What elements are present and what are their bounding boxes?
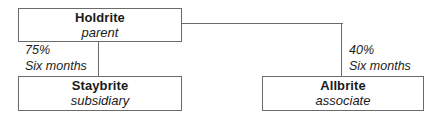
edge-label-associate-percent: 40% <box>349 43 374 58</box>
node-role: subsidiary <box>19 93 181 109</box>
node-role: associate <box>263 93 423 109</box>
edge-label-subsidiary-period: Six months <box>25 59 87 74</box>
connector-parent-to-subsidiary <box>98 41 99 76</box>
node-role: parent <box>19 25 181 41</box>
node-name: Staybrite <box>19 78 181 93</box>
node-holdrite: Holdrite parent <box>18 8 182 42</box>
node-name: Holdrite <box>19 10 181 25</box>
edge-label-associate-period: Six months <box>349 59 411 74</box>
node-allbrite: Allbrite associate <box>262 76 424 111</box>
connector-parent-to-associate-horizontal <box>181 23 343 24</box>
connector-parent-to-associate-vertical <box>341 23 342 76</box>
node-staybrite: Staybrite subsidiary <box>18 76 182 111</box>
node-name: Allbrite <box>263 78 423 93</box>
edge-label-subsidiary-percent: 75% <box>25 43 50 58</box>
